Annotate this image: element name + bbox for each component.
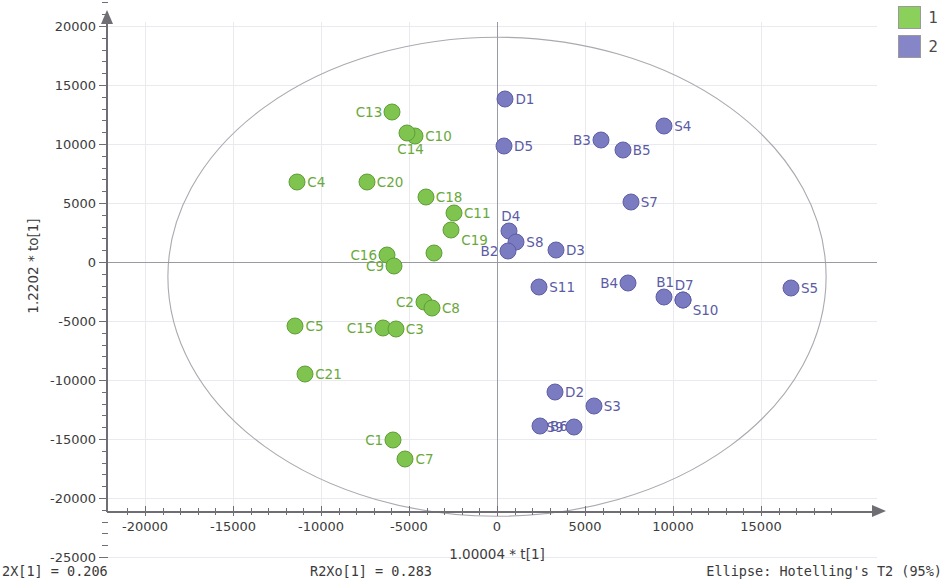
data-point-marker[interactable] <box>445 205 462 222</box>
data-point-marker[interactable] <box>614 142 631 159</box>
legend-item[interactable]: 2 <box>898 35 938 58</box>
data-point-marker[interactable] <box>622 193 639 210</box>
x-tick-minor <box>603 508 604 515</box>
legend-swatch-series-2 <box>898 35 921 58</box>
y-tick-minor <box>102 191 108 192</box>
data-point-marker[interactable] <box>358 174 375 191</box>
data-point-marker[interactable] <box>425 244 442 261</box>
data-point-marker[interactable] <box>500 242 517 259</box>
data-point-marker[interactable] <box>585 397 602 414</box>
data-point-marker[interactable] <box>592 131 609 148</box>
data-point-marker[interactable] <box>287 317 304 334</box>
y-tick-label: 20000 <box>55 19 96 34</box>
legend-label-series-1: 1 <box>928 9 938 27</box>
x-tick-minor <box>515 508 516 515</box>
data-point-marker[interactable] <box>497 90 514 107</box>
y-tick-minor <box>102 474 108 475</box>
y-tick-minor <box>102 463 108 464</box>
y-tick-major <box>99 203 108 204</box>
data-point-marker[interactable] <box>386 258 403 275</box>
data-point-marker[interactable] <box>565 418 582 435</box>
x-tick-major <box>321 506 322 516</box>
data-point-marker[interactable] <box>782 279 799 296</box>
data-point-marker[interactable] <box>620 275 637 292</box>
x-tick-label: -10000 <box>298 519 344 534</box>
x-tick-major <box>673 506 674 516</box>
data-point-marker[interactable] <box>496 138 513 155</box>
legend: 1 2 <box>898 6 938 58</box>
x-tick-minor <box>356 508 357 515</box>
y-tick-label: 5000 <box>63 196 96 211</box>
data-point-marker[interactable] <box>532 418 549 435</box>
x-axis-label: 1.00004 * t[1] <box>449 546 545 562</box>
x-tick-major <box>585 506 586 516</box>
data-point-marker[interactable] <box>423 300 440 317</box>
y-tick-minor <box>102 427 108 428</box>
data-point-marker[interactable] <box>297 366 314 383</box>
data-point-marker[interactable] <box>289 173 306 190</box>
x-tick-minor <box>391 508 392 515</box>
y-tick-minor <box>102 356 108 357</box>
y-tick-label: -15000 <box>50 432 96 447</box>
x-tick-minor <box>127 508 128 515</box>
data-point-marker[interactable] <box>417 188 434 205</box>
x-tick-minor <box>655 508 656 515</box>
x-tick-label: 0 <box>493 519 501 534</box>
data-point-marker[interactable] <box>387 320 404 337</box>
x-tick-minor <box>251 508 252 515</box>
data-point-marker[interactable] <box>443 222 460 239</box>
data-point-marker[interactable] <box>674 291 691 308</box>
legend-item[interactable]: 1 <box>898 6 938 29</box>
y-tick-minor <box>102 97 108 98</box>
y-tick-minor <box>102 309 108 310</box>
x-tick-minor <box>374 508 375 515</box>
data-point-marker[interactable] <box>547 383 564 400</box>
x-tick-minor <box>726 508 727 515</box>
y-tick-major <box>99 85 108 86</box>
y-tick-label: -5000 <box>58 314 96 329</box>
data-point-marker[interactable] <box>385 431 402 448</box>
x-tick-minor <box>215 508 216 515</box>
y-tick-minor <box>102 227 108 228</box>
x-axis-line <box>107 511 878 513</box>
hotelling-ellipse <box>0 0 946 588</box>
y-tick-major <box>99 439 108 440</box>
y-tick-minor <box>102 73 108 74</box>
x-axis-arrow-icon <box>872 505 886 517</box>
data-point-marker[interactable] <box>547 241 564 258</box>
y-tick-minor <box>102 297 108 298</box>
y-tick-major <box>99 498 108 499</box>
x-tick-minor <box>268 508 269 515</box>
footer-r2x: 2X[1] = 0.206 <box>2 563 108 579</box>
x-tick-label: 15000 <box>740 519 781 534</box>
x-tick-minor <box>831 508 832 515</box>
x-tick-label: 10000 <box>652 519 693 534</box>
y-tick-label: 10000 <box>55 137 96 152</box>
y-tick-minor <box>102 522 108 523</box>
y-tick-minor <box>102 545 108 546</box>
x-tick-minor <box>743 508 744 515</box>
y-tick-major <box>99 144 108 145</box>
y-tick-minor <box>102 533 108 534</box>
y-tick-label: 15000 <box>55 78 96 93</box>
y-tick-major <box>99 26 108 27</box>
x-tick-minor <box>462 508 463 515</box>
x-tick-major <box>233 506 234 516</box>
data-point-marker[interactable] <box>656 117 673 134</box>
x-tick-minor <box>479 508 480 515</box>
data-point-marker[interactable] <box>384 104 401 121</box>
y-tick-minor <box>102 50 108 51</box>
y-tick-major <box>99 380 108 381</box>
y-tick-label: -10000 <box>50 373 96 388</box>
plot-area: 20000150001000050000-5000-10000-15000-20… <box>0 0 946 588</box>
legend-label-series-2: 2 <box>928 38 938 56</box>
legend-swatch-series-1 <box>898 6 921 29</box>
y-tick-label: -20000 <box>50 491 96 506</box>
data-point-marker[interactable] <box>397 451 414 468</box>
y-tick-minor <box>102 38 108 39</box>
data-point-marker[interactable] <box>531 278 548 295</box>
data-point-marker[interactable] <box>656 288 673 305</box>
y-tick-minor <box>102 368 108 369</box>
y-tick-major <box>99 262 108 263</box>
data-point-marker[interactable] <box>399 125 416 142</box>
